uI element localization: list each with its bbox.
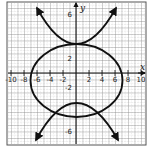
x-tick-label: 8	[126, 76, 130, 84]
x-tick-label: -2	[60, 76, 67, 84]
x-tick-label: -4	[47, 76, 55, 84]
x-tick-label: -10	[5, 76, 16, 84]
y-axis-label: y	[79, 3, 86, 13]
y-tick-label: -2	[65, 84, 72, 92]
y-tick-label: 6	[68, 11, 73, 19]
y-tick-label: -6	[65, 128, 73, 136]
x-tick-label: -6	[34, 76, 42, 84]
x-tick-label: 6	[113, 76, 118, 84]
coordinate-plane: -10 -8 -6 -4 -2 2 4 6 8 10 6 2 -2 -6 y x	[0, 0, 147, 147]
y-tick-label: 2	[68, 55, 72, 63]
x-tick-label: -8	[21, 76, 28, 84]
x-tick-label: 2	[87, 76, 91, 84]
x-tick-label: 10	[137, 76, 146, 84]
x-axis-label: x	[140, 62, 145, 72]
x-tick-label: 4	[100, 76, 105, 84]
